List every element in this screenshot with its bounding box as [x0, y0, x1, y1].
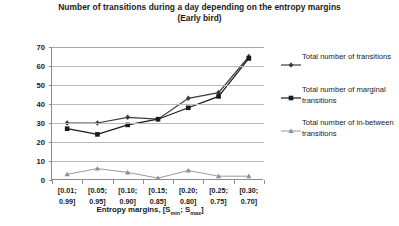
gridline	[52, 123, 264, 124]
square-marker	[156, 117, 161, 122]
y-tick-label: 70	[21, 43, 45, 52]
legend-item[interactable]: Total number of transitions	[281, 52, 399, 74]
triangle-marker	[95, 166, 100, 171]
chart-title: Number of transitions during a day depen…	[0, 2, 399, 13]
x-tick-mark	[203, 180, 204, 184]
chart-container: Number of transitions during a day depen…	[0, 0, 399, 226]
x-axis-title-suffix: ]	[201, 205, 204, 214]
chart-title-block: Number of transitions during a day depen…	[0, 2, 399, 24]
series-triangle	[65, 166, 252, 180]
chart-subtitle: (Early bird)	[0, 13, 399, 24]
gridline	[52, 161, 264, 162]
y-tick-mark	[49, 142, 52, 143]
gridline	[52, 142, 264, 143]
gridline	[52, 47, 264, 48]
x-tick-mark	[264, 180, 265, 184]
diamond-marker	[281, 55, 301, 63]
gridline	[52, 66, 264, 67]
diamond-marker	[186, 96, 191, 102]
y-tick-label: 50	[21, 81, 45, 90]
triangle-marker	[186, 168, 191, 173]
triangle-marker	[281, 121, 301, 129]
x-axis-title-sub-max: max	[190, 210, 201, 216]
x-axis-title-prefix: Entropy margins, [S	[96, 205, 170, 214]
x-tick-mark	[113, 180, 114, 184]
y-tick-label: 20	[21, 138, 45, 147]
x-tick-mark	[234, 180, 235, 184]
square-marker	[186, 106, 191, 111]
y-tick-mark	[49, 123, 52, 124]
legend-item[interactable]: Total number of in-between transitions	[281, 118, 399, 140]
legend-label: Total number of marginal transitions	[302, 85, 399, 106]
series-square	[65, 56, 251, 137]
legend-label: Total number of in-between transitions	[302, 118, 399, 139]
y-tick-label: 0	[21, 176, 45, 185]
legend-item[interactable]: Total number of marginal transitions	[281, 85, 399, 107]
legend-label: Total number of transitions	[302, 52, 399, 63]
x-tick-label: [0.30;0.70]	[228, 186, 270, 207]
square-marker	[95, 132, 100, 137]
y-tick-mark	[49, 85, 52, 86]
chart-legend: Total number of transitionsTotal number …	[281, 52, 399, 151]
gridline	[52, 85, 264, 86]
y-tick-mark	[49, 66, 52, 67]
gridline	[52, 104, 264, 105]
diamond-marker	[289, 62, 294, 68]
y-tick-label: 40	[21, 100, 45, 109]
x-axis-title-sub-min: min	[171, 210, 181, 216]
diamond-marker	[125, 115, 130, 121]
y-tick-mark	[49, 161, 52, 162]
x-tick-mark	[52, 180, 53, 184]
y-tick-label: 60	[21, 62, 45, 71]
plot-area: 010203040506070[0.01;0.99][0.05;0.95][0.…	[51, 47, 263, 180]
square-marker	[65, 126, 70, 131]
y-tick-mark	[49, 47, 52, 48]
square-marker	[289, 96, 294, 101]
square-marker	[216, 94, 221, 99]
x-axis-title-mid: ; S	[180, 205, 190, 214]
x-tick-mark	[143, 180, 144, 184]
x-tick-label-line: [0.30;	[228, 186, 270, 197]
square-marker	[247, 56, 252, 61]
y-tick-label: 30	[21, 119, 45, 128]
x-tick-mark	[173, 180, 174, 184]
square-marker	[281, 88, 301, 96]
x-axis-title: Entropy margins, [Smin; Smax]	[0, 205, 300, 216]
y-tick-mark	[49, 104, 52, 105]
x-tick-mark	[82, 180, 83, 184]
y-tick-label: 10	[21, 157, 45, 166]
